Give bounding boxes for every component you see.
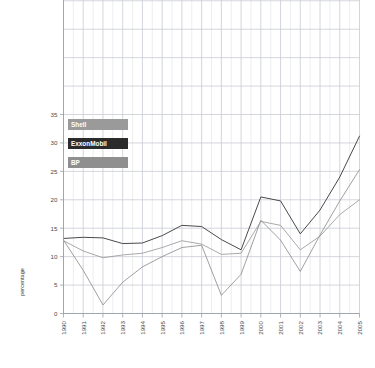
x-tick-label: 1994 (139, 320, 146, 334)
y-tick-label: 0 (54, 310, 58, 317)
y-tick-label: 30 (51, 139, 58, 146)
y-tick-label: 25 (51, 168, 58, 175)
x-tick-label: 1990 (60, 320, 67, 334)
legend-label: Shell (71, 121, 86, 128)
x-tick-label: 1998 (218, 320, 225, 334)
x-tick-label: 2001 (277, 320, 284, 334)
x-tick-label: 1999 (238, 320, 245, 334)
legend-label: BP (71, 159, 81, 166)
x-tick-label: 1992 (99, 320, 106, 334)
legend-item: Shell (68, 119, 128, 130)
legend-item: BP (68, 157, 128, 168)
x-tick-label: 2002 (297, 320, 304, 334)
y-axis-title: percentage (19, 268, 25, 296)
x-tick-label: 1995 (159, 320, 166, 334)
y-tick-label: 10 (51, 253, 58, 260)
x-tick-label: 2004 (336, 320, 343, 334)
x-tick-label: 2005 (356, 320, 363, 334)
y-tick-label: 5 (54, 281, 58, 288)
chart-legend: ShellExxonMobilBP (68, 119, 128, 168)
x-tick-label: 1997 (198, 320, 205, 334)
x-tick-label: 2003 (316, 320, 323, 334)
y-axis-title-text: percentage (19, 268, 25, 296)
x-tick-label: 1996 (178, 320, 185, 334)
y-tick-label: 35 (51, 111, 58, 118)
legend-item: ExxonMobil (68, 138, 128, 149)
chart-canvas: 05101520253035 1990199119921993199419951… (0, 0, 375, 368)
x-tick-label: 1991 (80, 320, 87, 334)
x-tick-label: 1993 (119, 320, 126, 334)
line-chart: 05101520253035 1990199119921993199419951… (0, 0, 375, 368)
legend-label: ExxonMobil (71, 140, 107, 147)
y-tick-label: 15 (51, 225, 58, 232)
x-tick-label: 2000 (257, 320, 264, 334)
y-tick-label: 20 (51, 196, 58, 203)
